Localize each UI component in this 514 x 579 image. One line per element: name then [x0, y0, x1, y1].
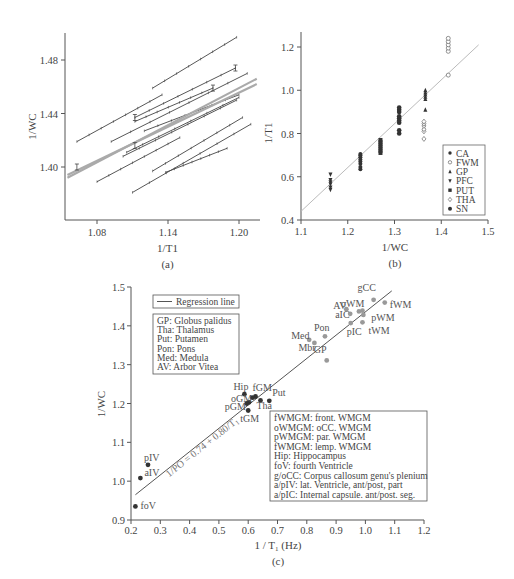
data-point: [382, 300, 387, 305]
point-label: Put: [272, 387, 286, 398]
legend-entry: pWMGM: par. WMGM: [274, 432, 366, 442]
y-axis-title: 1/WC: [95, 391, 107, 417]
y-tick-label: 1.48: [40, 55, 58, 66]
y-tick-label: 1.0: [112, 476, 125, 487]
point-label: aIV: [144, 467, 160, 478]
y-tick-label: 0.6: [281, 172, 294, 183]
y-tick-label: 1.44: [40, 109, 59, 120]
x-tick-label: 0.2: [124, 525, 137, 536]
x-tick-label: 0.5: [212, 525, 225, 536]
y-tick-label: 1.2: [112, 399, 125, 410]
data-point: [246, 408, 251, 413]
panel-label: (c): [272, 555, 285, 568]
y-tick-label: 1.3: [112, 360, 125, 371]
panel-b-chart: 0.40.60.81.01.21.11.21.31.41.51/WC1/T1(b…: [262, 32, 495, 270]
y-tick-label: 0.4: [281, 215, 295, 226]
point-label: oWM: [341, 298, 364, 309]
point-label: fWM: [390, 299, 412, 310]
x-tick-label: 1.1: [388, 525, 401, 536]
point-label: pIC: [347, 326, 362, 337]
data-line: [111, 73, 247, 141]
y-tick-label: 1.1: [112, 437, 125, 448]
x-tick-label: 0.6: [242, 525, 255, 536]
legend-entry: foV: fourth Ventricle: [274, 461, 353, 471]
panel-label: (b): [389, 257, 402, 270]
x-tick-label: 1.14: [159, 227, 178, 238]
panel-c-chart: 0.91.01.11.21.31.41.50.20.30.40.50.60.70…: [95, 282, 431, 568]
series-put: [378, 138, 382, 155]
legend-entry: fWMGM: front. WMGM: [274, 413, 371, 423]
x-axis-title: 1/WC: [382, 241, 408, 253]
data-point: [360, 320, 365, 325]
data-line: [166, 148, 228, 172]
point-label: aIC: [335, 309, 350, 320]
legend-entry: fWMGM: lemp. WMGM: [274, 442, 372, 452]
x-tick-label: 0.7: [271, 525, 284, 536]
data-line: [97, 138, 180, 182]
x-axis-title: 1/T1: [157, 242, 178, 254]
data-line: [123, 100, 237, 156]
x-tick-label: 0.3: [154, 525, 167, 536]
point-label: fGM: [253, 382, 273, 393]
data-point: [138, 476, 143, 481]
series-tha: [422, 119, 426, 141]
data-point: [323, 334, 328, 339]
point-label: tWM: [368, 325, 389, 336]
y-tick-label: 1.5: [112, 282, 125, 293]
x-tick-label: 1.4: [435, 226, 449, 237]
regression-equation: 1/PO = 0.74 + 0.80/T1: [163, 415, 241, 481]
data-point: [324, 358, 329, 363]
legend-entry: a/pIC: Internal capsule. ant/post. seg.: [274, 490, 415, 500]
x-tick-label: 0.4: [183, 525, 197, 536]
legend-entry: Hip: Hippocampus: [274, 451, 346, 461]
y-tick-label: 1.40: [40, 162, 58, 173]
data-point: [361, 313, 366, 318]
data-line: [153, 37, 237, 88]
regression-legend: Regression line: [153, 295, 239, 308]
data-point: [371, 297, 376, 302]
legend: CAFWMGPPFCPUTTHASN: [443, 145, 485, 215]
y-tick-label: 1.2: [281, 42, 294, 53]
data-point: [146, 462, 151, 467]
x-tick-label: 1.08: [88, 227, 106, 238]
x-tick-label: 1.0: [359, 525, 372, 536]
y-tick-label: 0.9: [112, 515, 125, 526]
data-line: [135, 68, 236, 117]
panel-a-chart: 1.401.441.481.081.141.201/T11/WC(a): [26, 33, 260, 271]
data-point: [250, 395, 255, 400]
x-tick-label: 1.5: [481, 226, 494, 237]
series-sn: [397, 105, 402, 136]
point-label: pWM: [371, 312, 394, 323]
x-axis-title: 1 / T1 (Hz): [255, 539, 302, 553]
legend-entry: oWMGM: oCC. WMGM: [274, 423, 372, 433]
series-pfc: [328, 173, 332, 193]
point-label: gCC: [358, 282, 377, 293]
legend-entry: g/oCC: Corpus callosum genu's plenium: [274, 471, 428, 481]
data-point: [267, 398, 272, 403]
data-point: [360, 308, 365, 313]
y-tick-label: 1.0: [281, 85, 294, 96]
data-point: [348, 321, 353, 326]
data-line: [135, 88, 213, 121]
legend-entry: SN: [456, 204, 468, 214]
point-label: tGM: [240, 413, 259, 424]
y-tick-label: 1.4: [112, 321, 126, 332]
data-point: [133, 504, 138, 509]
point-label: Med: [291, 330, 309, 341]
x-tick-label: 1.3: [388, 226, 401, 237]
x-tick-label: 1.20: [230, 227, 248, 238]
y-axis-title: 1/WC: [26, 113, 38, 139]
point-label: pGM: [225, 401, 246, 412]
x-tick-label: 1.2: [341, 226, 354, 237]
x-tick-label: 0.9: [330, 525, 343, 536]
x-tick-label: 0.8: [300, 525, 313, 536]
point-label: Pon: [314, 322, 330, 333]
point-label: pIV: [144, 452, 160, 463]
x-tick-label: 1.1: [294, 226, 307, 237]
series-ca: [358, 152, 362, 171]
y-tick-label: 0.8: [281, 129, 294, 140]
figure: 1.401.441.481.081.141.201/T11/WC(a) 0.40…: [0, 0, 514, 579]
x-tick-label: 1.2: [417, 525, 430, 536]
abbreviation-legend-bottom: fWMGM: front. WMGMoWMGM: oCC. WMGMpWMGM:…: [270, 411, 428, 501]
regression-line: [67, 84, 256, 175]
